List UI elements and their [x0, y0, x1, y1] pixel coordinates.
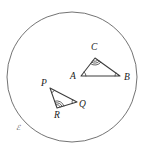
- arc-p-stroke: [52, 90, 55, 92]
- vertex-label-p: P: [40, 78, 47, 88]
- vertex-label-r: R: [53, 110, 60, 120]
- triangle-pqr: P Q R: [40, 78, 86, 120]
- vertex-label-b: B: [124, 72, 130, 82]
- angle-arc-q: [72, 100, 73, 104]
- vertex-label-a: A: [69, 71, 76, 81]
- triangle-abc-edges: [81, 58, 120, 76]
- plane-label: ℰ: [16, 124, 21, 132]
- triangle-abc: A B C: [69, 42, 130, 82]
- figure-canvas: A B C P Q R ℰ: [0, 0, 146, 154]
- angle-arc-p: [52, 90, 55, 92]
- angle-arc-c: [91, 60, 101, 65]
- arc-a-stroke: [84, 72, 86, 76]
- angle-arc-a: [84, 72, 86, 76]
- arc-q-stroke: [72, 100, 73, 104]
- geometry-figure: A B C P Q R ℰ: [0, 0, 146, 154]
- vertex-label-q: Q: [79, 99, 86, 109]
- vertex-label-c: C: [91, 42, 98, 52]
